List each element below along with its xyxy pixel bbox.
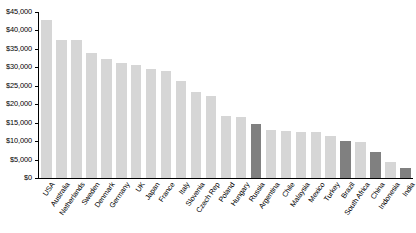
plot-area (39, 12, 413, 178)
bar-slovenia (191, 92, 201, 178)
bar-australia (56, 40, 66, 178)
bar-india (400, 168, 410, 178)
bar-indonesia (385, 162, 395, 178)
y-axis-tick-label: $30,000 (6, 64, 32, 71)
bar-south-africa (355, 142, 365, 178)
y-axis-tick-label: $10,000 (6, 137, 32, 144)
y-axis-tick-label: $45,000 (6, 8, 32, 15)
bar-turkey (325, 136, 335, 178)
y-axis-tick-label: $5,000 (10, 156, 32, 163)
y-axis-tick-label: $0 (24, 174, 32, 181)
bar-japan (146, 69, 156, 178)
y-axis-tick-label: $35,000 (6, 45, 32, 52)
bar-czech-rep (206, 96, 216, 178)
y-axis-tick-label: $15,000 (6, 119, 32, 126)
bar-mexico (311, 132, 321, 178)
bar-netherlands (71, 40, 81, 178)
bar-denmark (101, 59, 111, 178)
bar-france (161, 71, 171, 178)
bar-hungary (236, 117, 246, 178)
bar-sweden (86, 53, 96, 178)
y-axis-tick-label: $25,000 (6, 82, 32, 89)
x-axis: USAAustraliaNetherlandsSwedenDenmarkGerm… (39, 179, 413, 233)
bar-italy (176, 81, 186, 178)
x-axis-tick-label: India (401, 181, 416, 198)
y-axis-tick-label: $40,000 (6, 27, 32, 34)
bar-russia (251, 124, 261, 178)
bar-uk (131, 65, 141, 178)
bar-germany (116, 63, 126, 178)
bar-poland (221, 116, 231, 178)
bar-brazil (340, 141, 350, 178)
y-axis-tick-label: $20,000 (6, 101, 32, 108)
bar-usa (41, 20, 51, 178)
bar-argentina (266, 130, 276, 178)
bar-malaysia (296, 132, 306, 178)
bar-chile (281, 131, 291, 178)
x-axis-tick-label: UK (135, 181, 147, 193)
y-axis: $45,000$40,000$35,000$30,000$25,000$20,0… (0, 0, 38, 233)
bar-china (370, 152, 380, 178)
